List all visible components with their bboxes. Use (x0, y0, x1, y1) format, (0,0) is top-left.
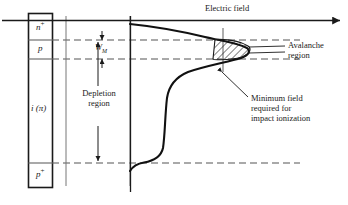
layer-label-i-pi: i (π) (31, 103, 46, 113)
depletion-region-label: Depletionregion (70, 88, 128, 108)
avalanche-leader-upper (249, 46, 285, 47)
avalanche-leader-lower (249, 52, 285, 53)
minimum-field-leader (222, 72, 248, 97)
device-layer-stack (29, 14, 53, 188)
layer-label-n-plus: n+ (36, 20, 44, 32)
wm-label: WM (95, 42, 107, 54)
minimum-field-label: Minimum fieldrequired forimpact ionizati… (251, 93, 347, 123)
electric-field-axis-label: Electric field (205, 3, 249, 13)
layer-label-p: p (38, 43, 43, 53)
layer-label-p-plus: p+ (36, 167, 44, 179)
avalanche-region-label: Avalancheregion (288, 40, 348, 60)
figure-container: n+ p i (π) p+ WM Depletionregion Electri… (0, 0, 348, 205)
